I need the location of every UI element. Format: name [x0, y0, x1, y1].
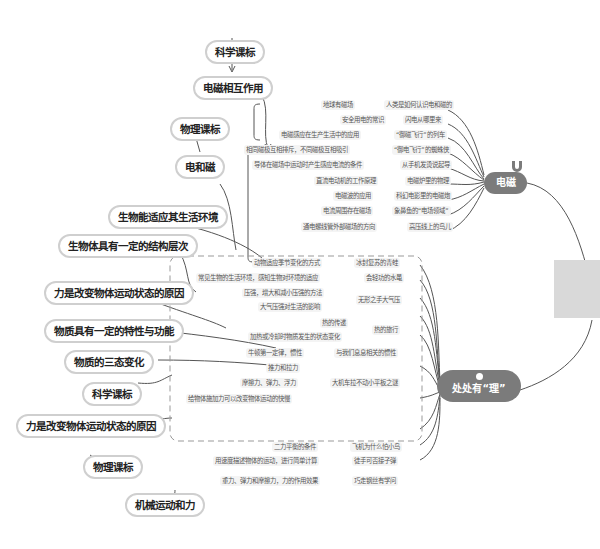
leaf-right[interactable]: 会轻功的水黾 — [364, 273, 404, 283]
leaf-right[interactable]: 科幻电影里的电磁炮 — [394, 191, 452, 201]
leaf-right[interactable]: 象鼻鱼的“电场领域” — [392, 206, 451, 216]
curriculum-node[interactable]: 科学课标 — [82, 382, 142, 406]
leaf-right[interactable]: 无形之手大气压 — [356, 295, 402, 305]
curriculum-node[interactable]: 力是改变物体运动状态的原因 — [16, 414, 166, 438]
leaf-right[interactable]: 与我们息息相关的惯性 — [334, 348, 398, 358]
leaf-left[interactable]: 通电螺线管外部磁场的方向 — [301, 222, 377, 232]
leaf-left[interactable]: 相同磁极互相排斥，不同磁极互相吸引 — [244, 145, 350, 155]
curriculum-node[interactable]: 生物能适应其生活环境 — [108, 205, 228, 229]
leaf-right[interactable]: 徒手可否接子弹 — [352, 456, 398, 466]
leaf-left[interactable]: 导体在磁场中运动时产生感应电流的条件 — [252, 160, 364, 170]
leaf-left[interactable]: 推力和拉力 — [266, 363, 300, 373]
leaf-left[interactable]: 电磁感应在生产生活中的应用 — [279, 130, 361, 140]
leaf-left[interactable]: 安全用电的常识 — [340, 115, 386, 125]
curriculum-node[interactable]: 生物体具有一定的结构层次 — [58, 234, 198, 258]
leaf-right[interactable]: 人类是如何认识电和磁的 — [384, 100, 454, 110]
leaf-left[interactable]: 牛顿第一定律，惯性 — [246, 348, 304, 358]
root-node[interactable]: 处处有“理” — [437, 370, 521, 402]
leaf-left[interactable]: 二力平衡的条件 — [272, 442, 318, 452]
leaf-right[interactable]: 巧走钢丝有学问 — [352, 476, 398, 486]
curriculum-node[interactable]: 物质的三态变化 — [64, 350, 154, 374]
leaf-right[interactable]: 热的旅行 — [372, 325, 400, 335]
topic-electromagnetism[interactable]: 电磁 — [484, 172, 527, 194]
leaf-right[interactable]: 冰封复苏的青蛙 — [354, 258, 400, 268]
leaf-left[interactable]: 压强，增大和减小压强的方法 — [242, 288, 324, 298]
leaf-right[interactable]: 飞机为什么怕小鸟 — [350, 442, 402, 452]
lightbulb-icon — [476, 373, 483, 380]
leaf-right[interactable]: 电磁炉里的物理 — [405, 176, 451, 186]
side-tab[interactable] — [554, 260, 600, 318]
leaf-left[interactable]: 给物体施加力可以改变物体运动的快慢 — [186, 394, 292, 404]
leaf-left[interactable]: 加热或冷却时物质发生的状态变化 — [248, 332, 342, 342]
curriculum-node[interactable]: 物理课标 — [83, 455, 143, 479]
curriculum-node[interactable]: 物质具有一定的特性与功能 — [44, 319, 184, 343]
leaf-right[interactable]: “御磁飞行”的列车 — [394, 130, 447, 140]
leaf-left[interactable]: 摩擦力、弹力、浮力 — [240, 378, 298, 388]
leaf-left[interactable]: 动物适应季节变化的方式 — [252, 258, 322, 268]
leaf-left[interactable]: 用速度描述物体的运动，进行简单计算 — [213, 456, 319, 466]
leaf-left[interactable]: 电磁波的应用 — [333, 191, 373, 201]
curriculum-node[interactable]: 力是改变物体运动状态的原因 — [44, 281, 194, 305]
leaf-left[interactable]: 直流电动机的工作原理 — [314, 176, 378, 186]
leaf-right[interactable]: 从手机发烫说起导 — [400, 160, 452, 170]
leaf-left[interactable]: 电流周围存在磁场 — [321, 206, 373, 216]
leaf-left[interactable]: 热的传递 — [320, 318, 348, 328]
curriculum-node[interactable]: 科学课标 — [205, 40, 265, 64]
leaf-left[interactable]: 常见生物的生活环境，感知生物对环境的适应 — [196, 273, 320, 283]
root-label: 处处有“理” — [437, 380, 521, 398]
leaf-left[interactable]: 地球有磁场 — [321, 100, 355, 110]
curriculum-node[interactable]: 机械运动和力 — [125, 493, 205, 517]
leaf-right[interactable]: 高压线上的鸟儿 — [407, 222, 453, 232]
leaf-right[interactable]: 大机车拉不动小平板之谜 — [330, 378, 400, 388]
curriculum-node[interactable]: 物理课标 — [170, 117, 230, 141]
curriculum-node[interactable]: 电磁相互作用 — [193, 76, 273, 100]
leaf-left[interactable]: 大气压强对生活的影响 — [258, 302, 322, 312]
leaf-right[interactable]: “御电飞行”的蜘蛛侠 — [392, 145, 451, 155]
leaf-right[interactable]: 闪电从哪里来 — [403, 115, 443, 125]
curriculum-node[interactable]: 电和磁 — [175, 155, 225, 179]
leaf-left[interactable]: 重力、弹力和摩擦力，力的作用效果 — [220, 476, 320, 486]
magnet-icon — [510, 158, 524, 170]
